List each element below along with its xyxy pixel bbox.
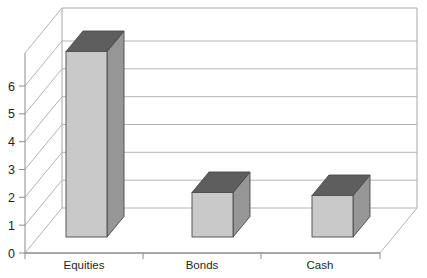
- bar-group-bonds[interactable]: [192, 172, 250, 237]
- y-tick-label-2: 2: [8, 191, 15, 205]
- y-tick-label-5: 5: [8, 107, 15, 121]
- y-tick-label-1: 1: [8, 219, 15, 233]
- x-category-label-bonds: Bonds: [186, 259, 219, 271]
- x-category-label-cash: Cash: [307, 259, 334, 271]
- y-tick-label-4: 4: [8, 135, 15, 149]
- bar-equities-side-face: [107, 31, 124, 237]
- y-tick-label-0: 0: [8, 247, 15, 261]
- bar-cash-front-face: [312, 196, 353, 238]
- bar-bonds-front-face: [192, 193, 233, 238]
- bar-group-equities[interactable]: [66, 31, 124, 237]
- bar-equities-front-face: [66, 52, 107, 238]
- x-category-label-equities: Equities: [64, 259, 105, 271]
- bar-chart-3d: 0 1 2 3 4 5 6: [0, 0, 427, 278]
- chart-container: 0 1 2 3 4 5 6: [0, 0, 427, 278]
- y-tick-label-6: 6: [8, 80, 15, 94]
- y-tick-label-3: 3: [8, 163, 15, 177]
